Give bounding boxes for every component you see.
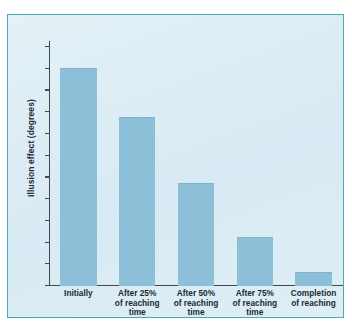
y-tick-mark bbox=[45, 263, 50, 264]
bar bbox=[295, 272, 331, 286]
figure-container: Illusion effect (degrees) 01234567891011… bbox=[0, 0, 352, 332]
x-tick-label-line: Initially bbox=[45, 289, 112, 299]
plot-area: Illusion effect (degrees) 01234567891011… bbox=[8, 15, 345, 319]
y-tick-mark bbox=[45, 133, 50, 134]
x-tick-label: After 50%of reachingtime bbox=[163, 289, 230, 318]
chart-panel: Illusion effect (degrees) 01234567891011… bbox=[7, 14, 344, 318]
x-tick-label: After 25%of reachingtime bbox=[104, 289, 171, 318]
y-tick-mark bbox=[45, 242, 50, 243]
cropped-caption bbox=[9, 322, 159, 329]
x-tick-label-line: time bbox=[163, 308, 230, 318]
x-tick-label: After 75%of reachingtime bbox=[221, 289, 288, 318]
y-tick-mark bbox=[45, 285, 50, 286]
bar bbox=[237, 237, 273, 286]
x-tick-label: Completionof reaching bbox=[280, 289, 347, 308]
y-tick-mark bbox=[45, 89, 50, 90]
bar bbox=[119, 117, 155, 286]
y-tick-mark bbox=[45, 176, 50, 177]
y-tick-mark bbox=[45, 46, 50, 47]
y-tick-mark bbox=[45, 155, 50, 156]
y-tick-mark bbox=[45, 111, 50, 112]
bar bbox=[60, 68, 96, 286]
bar bbox=[178, 183, 214, 286]
y-tick-mark bbox=[45, 68, 50, 69]
y-axis-line bbox=[49, 41, 50, 286]
x-tick-label-line: time bbox=[221, 308, 288, 318]
y-axis-title: Illusion effect (degrees) bbox=[26, 73, 36, 223]
x-tick-label-line: of reaching bbox=[280, 299, 347, 309]
y-tick-mark bbox=[45, 198, 50, 199]
y-tick-mark bbox=[45, 220, 50, 221]
x-tick-label: Initially bbox=[45, 289, 112, 299]
x-tick-label-line: time bbox=[104, 308, 171, 318]
